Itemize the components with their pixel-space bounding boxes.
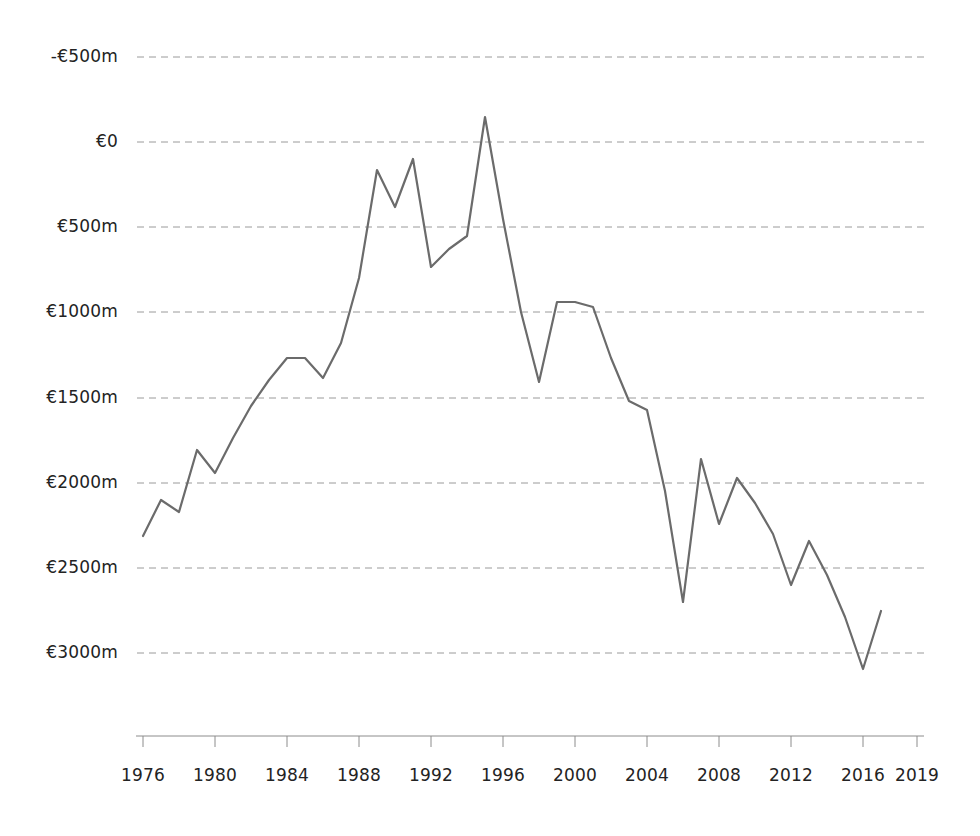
x-tick-label: 2004 [607,765,687,785]
x-tick-label: 1976 [103,765,183,785]
y-tick-label: €2000m [0,472,118,492]
x-tick-label: 2008 [679,765,759,785]
x-tick-label: 1988 [319,765,399,785]
y-tick-label: €0 [0,131,118,151]
x-tick-label: 1996 [463,765,543,785]
x-tick-label: 2019 [877,765,957,785]
x-tick-label: 1992 [391,765,471,785]
y-tick-label: €1500m [0,387,118,407]
line-chart-svg [0,0,980,836]
x-tick-label: 1984 [247,765,327,785]
y-tick-label: €1000m [0,301,118,321]
chart-container: -€500m€0€500m€1000m€1500m€2000m€2500m€30… [0,0,980,836]
y-tick-label: -€500m [0,46,118,66]
x-tick-label: 1980 [175,765,255,785]
x-tick-label: 2012 [751,765,831,785]
x-tick-label: 2000 [535,765,615,785]
y-tick-label: €3000m [0,642,118,662]
y-tick-label: €2500m [0,557,118,577]
y-tick-label: €500m [0,216,118,236]
data-line-amount [143,117,881,669]
x-axis-group [136,736,924,747]
data-series-group [143,117,881,669]
